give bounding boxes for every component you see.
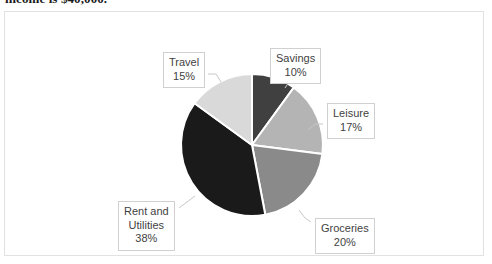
slice-label-savings-name: Savings bbox=[276, 52, 315, 66]
leader-line-travel bbox=[208, 74, 221, 82]
screenshot-root: income is $40,000. Travel 15% Savings 10… bbox=[0, 0, 492, 264]
slice-label-rent-and-utilities[interactable]: Rent and Utilities 38% bbox=[118, 201, 175, 251]
slice-label-savings-value: 10% bbox=[276, 66, 315, 80]
slice-label-travel-name: Travel bbox=[169, 56, 199, 70]
slice-label-rent-value: 38% bbox=[124, 232, 169, 246]
slice-label-savings[interactable]: Savings 10% bbox=[270, 48, 321, 84]
slice-label-leisure-value: 17% bbox=[333, 121, 369, 135]
leader-line-leisure bbox=[308, 124, 323, 130]
chart-frame: Travel 15% Savings 10% Leisure 17% Groce… bbox=[4, 11, 484, 256]
slice-label-groceries[interactable]: Groceries 20% bbox=[315, 218, 375, 254]
slice-label-groceries-value: 20% bbox=[321, 236, 369, 250]
slice-label-groceries-name: Groceries bbox=[321, 222, 369, 236]
slice-label-leisure-name: Leisure bbox=[333, 107, 369, 121]
leader-lines bbox=[5, 12, 485, 257]
slice-label-rent-name-1: Rent and bbox=[124, 205, 169, 219]
leader-line-groceries bbox=[299, 210, 311, 222]
slice-label-rent-name-2: Utilities bbox=[124, 219, 169, 233]
cropped-heading-text: income is $40,000. bbox=[5, 0, 107, 7]
slice-label-leisure[interactable]: Leisure 17% bbox=[327, 103, 375, 139]
slice-label-travel[interactable]: Travel 15% bbox=[163, 52, 205, 88]
leader-line-rent bbox=[179, 196, 195, 208]
slice-label-travel-value: 15% bbox=[169, 70, 199, 84]
